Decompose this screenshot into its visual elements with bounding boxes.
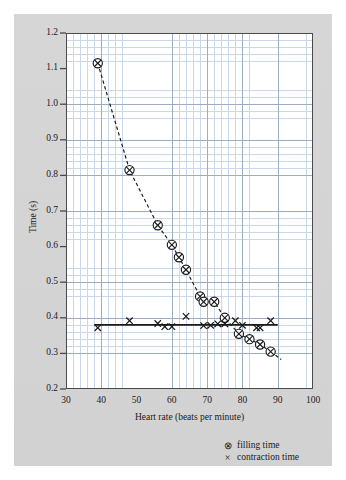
chart-overlay (0, 0, 346, 480)
legend-item: ⊗filling time (222, 440, 299, 452)
series-contraction-time (94, 313, 277, 331)
chart-figure: 0.20.30.40.50.60.70.80.91.01.11.2 304050… (0, 0, 346, 480)
legend-label: filling time (237, 440, 279, 452)
chart-legend: ⊗filling time×contraction time (222, 440, 299, 463)
legend-label: contraction time (237, 452, 299, 464)
data-series-layer (93, 59, 281, 360)
axis-tick-marks (60, 33, 66, 389)
legend-item: ×contraction time (222, 452, 299, 464)
circle-cross-icon: ⊗ (222, 440, 233, 452)
cross-icon: × (222, 452, 233, 464)
